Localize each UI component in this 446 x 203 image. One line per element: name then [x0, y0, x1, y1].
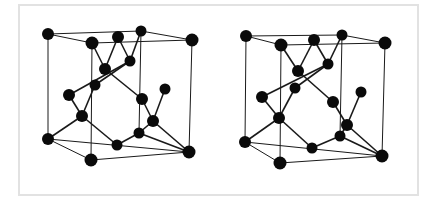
atom [183, 146, 196, 159]
atom [160, 84, 171, 95]
atom [308, 34, 320, 46]
atom [275, 39, 288, 52]
atom [125, 56, 136, 67]
atom [376, 150, 389, 163]
atom [290, 83, 301, 94]
bond [95, 61, 130, 85]
atom [356, 87, 367, 98]
right-unit-cell [239, 30, 392, 170]
bond [139, 133, 189, 152]
atom [292, 65, 304, 77]
bond [347, 125, 382, 156]
atom [323, 59, 334, 70]
atom [274, 157, 287, 170]
cell-edge [280, 156, 382, 163]
atom [112, 140, 123, 151]
bond [153, 121, 189, 152]
cell-edge [141, 31, 192, 40]
atom [256, 91, 268, 103]
atom [42, 28, 54, 40]
atom [335, 131, 346, 142]
cell-edge [342, 35, 385, 43]
cell-edge [48, 34, 92, 43]
atom [136, 26, 147, 37]
atom [379, 37, 392, 50]
bond [69, 61, 130, 95]
cell-edge [91, 152, 189, 160]
atom [240, 30, 252, 42]
atom [341, 119, 353, 131]
bond [48, 116, 82, 139]
atom [90, 80, 101, 91]
atom [76, 110, 88, 122]
atom [337, 30, 348, 41]
cell-edge [189, 40, 192, 152]
atom [99, 63, 111, 75]
atom [112, 31, 124, 43]
atom [136, 93, 148, 105]
atom [86, 37, 99, 50]
cell-edge [246, 35, 342, 36]
cell-edge [92, 40, 192, 43]
bond [340, 136, 382, 156]
cell-edge [48, 31, 141, 34]
bond [82, 116, 117, 145]
cell-edge [91, 43, 92, 160]
atom [239, 136, 251, 148]
atom [42, 133, 54, 145]
bond [245, 118, 279, 142]
crystal-stereo-diagram [0, 0, 446, 203]
cell-edge [245, 36, 246, 142]
bond [279, 118, 312, 148]
atoms [42, 26, 199, 167]
atom [186, 34, 199, 47]
atom [273, 112, 285, 124]
atom [327, 96, 339, 108]
cell-edge [281, 43, 385, 45]
atom [147, 115, 159, 127]
atom [134, 128, 145, 139]
atom [63, 89, 75, 101]
atom [307, 143, 318, 154]
cell-edge [139, 31, 141, 133]
atom [85, 154, 98, 167]
cell-edge [340, 35, 342, 136]
cell-edge [382, 43, 385, 156]
left-unit-cell [42, 26, 199, 167]
atoms [239, 30, 392, 170]
